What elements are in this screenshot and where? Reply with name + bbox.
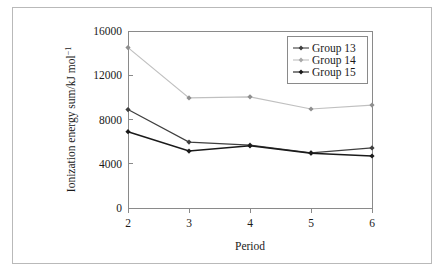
x-axis-ticks [128,208,372,213]
data-point [369,145,374,150]
y-axis-title-main: Ionization energy sum/kJ mol [65,55,78,192]
figure-canvas: 0 4000 8000 12000 16000 2 3 4 5 6 Period… [0,0,444,278]
data-point [369,103,374,108]
data-point [308,151,313,156]
ionization-energy-line-chart: 0 4000 8000 12000 16000 2 3 4 5 6 Period… [12,7,432,264]
x-tick-label-3: 3 [186,217,192,229]
x-tick-label-4: 4 [247,217,253,229]
x-tick-label-5: 5 [308,217,314,229]
x-tick-label-6: 6 [369,217,375,229]
y-tick-label-12000: 12000 [93,69,122,81]
data-point [247,94,252,99]
x-axis-tick-labels: 2 3 4 5 6 [125,217,375,229]
y-tick-label-0: 0 [116,202,122,214]
x-tick-label-2: 2 [125,217,131,229]
series-group-15 [125,129,374,159]
legend-label-group-15: Group 15 [312,66,356,79]
svg-text:Ionization energy sum/kJ mol−1: Ionization energy sum/kJ mol−1 [64,47,78,192]
y-axis-tick-labels: 0 4000 8000 12000 16000 [93,25,122,214]
y-tick-label-4000: 4000 [99,158,122,170]
y-axis-title-superscript: −1 [64,47,73,56]
data-point [186,148,191,153]
data-point [125,107,130,112]
data-point [369,153,374,158]
y-axis-title: Ionization energy sum/kJ mol−1 [64,47,78,192]
y-tick-label-8000: 8000 [99,114,122,126]
data-point [308,106,313,111]
chart-legend: Group 13 Group 14 Group 15 [287,36,367,83]
data-point [247,143,252,148]
data-point [125,129,130,134]
data-point [186,139,191,144]
y-tick-label-16000: 16000 [93,25,122,37]
x-axis-title: Period [235,240,265,252]
y-axis-ticks [128,31,133,208]
